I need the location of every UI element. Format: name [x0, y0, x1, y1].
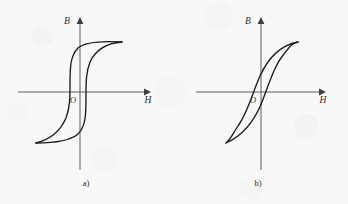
panel-a: B H O a) — [0, 0, 174, 204]
panel-b-plot: B H O b) — [174, 0, 348, 204]
b-axis-arrow-b — [258, 17, 265, 24]
b-axis-label-b: B — [245, 16, 251, 26]
b-axis-label-a: B — [64, 16, 70, 26]
origin-label-a: O — [70, 95, 76, 105]
panel-caption-b: b) — [254, 178, 261, 188]
hysteresis-figure: B H O a) B H O b) — [0, 0, 348, 204]
h-axis-label-a: H — [144, 95, 153, 105]
panel-a-plot: B H O a) — [0, 0, 174, 204]
panel-caption-a: a) — [83, 178, 90, 188]
h-axis-label-b: H — [319, 95, 328, 105]
origin-label-b: O — [250, 95, 256, 105]
b-axis-arrow-a — [77, 17, 84, 24]
panel-b: B H O b) — [174, 0, 348, 204]
hysteresis-curve-descending-a — [36, 42, 122, 143]
hysteresis-curve-descending-b — [226, 42, 298, 143]
